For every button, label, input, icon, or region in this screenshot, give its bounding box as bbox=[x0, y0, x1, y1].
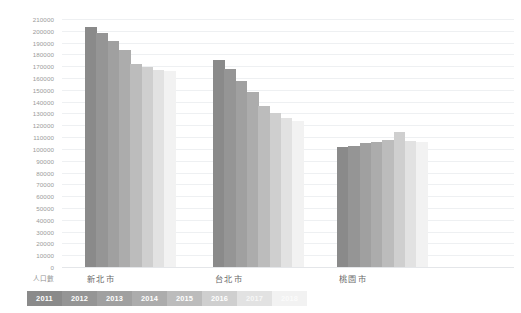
legend-item-2014[interactable]: 2014 bbox=[132, 291, 167, 306]
bar[interactable] bbox=[119, 50, 131, 267]
bar[interactable] bbox=[224, 69, 236, 267]
bar-group bbox=[337, 19, 427, 267]
bar[interactable] bbox=[258, 106, 270, 267]
y-axis-tick-label: 40000 bbox=[36, 216, 54, 223]
bar[interactable] bbox=[85, 27, 97, 267]
y-axis-tick-label: 190000 bbox=[33, 39, 54, 46]
y-axis-tick-label: 200000 bbox=[33, 27, 54, 34]
bar[interactable] bbox=[153, 70, 165, 267]
bar[interactable] bbox=[405, 141, 417, 267]
legend-item-2016[interactable]: 2016 bbox=[202, 291, 237, 306]
y-axis-tick-label: 80000 bbox=[36, 169, 54, 176]
bar[interactable] bbox=[394, 132, 406, 267]
bar[interactable] bbox=[142, 67, 154, 267]
legend-item-2018[interactable]: 2018 bbox=[272, 291, 307, 306]
y-axis-tick-label: 110000 bbox=[33, 134, 54, 141]
bar[interactable] bbox=[213, 60, 225, 267]
y-axis-tick-label: 210000 bbox=[33, 16, 54, 23]
legend-item-2013[interactable]: 2013 bbox=[97, 291, 132, 306]
bar[interactable] bbox=[337, 147, 349, 267]
y-axis-tick-label: 70000 bbox=[36, 181, 54, 188]
bar[interactable] bbox=[360, 143, 372, 267]
bar[interactable] bbox=[416, 142, 428, 267]
y-axis-tick-label: 30000 bbox=[36, 228, 54, 235]
bar[interactable] bbox=[130, 64, 142, 267]
gridline bbox=[62, 267, 514, 268]
y-axis-tick-label: 100000 bbox=[33, 145, 54, 152]
y-axis-tick-label: 140000 bbox=[33, 98, 54, 105]
bar-group bbox=[85, 19, 175, 267]
y-axis-tick-label: 50000 bbox=[36, 204, 54, 211]
category-label: 桃園市 bbox=[339, 272, 367, 284]
bar[interactable] bbox=[281, 118, 293, 267]
bar-group bbox=[213, 19, 303, 267]
plot-area bbox=[62, 19, 514, 267]
bar[interactable] bbox=[348, 146, 360, 267]
category-label: 台北市 bbox=[215, 272, 243, 284]
bar[interactable] bbox=[96, 33, 108, 267]
y-axis-tick-label: 150000 bbox=[33, 86, 54, 93]
bar[interactable] bbox=[108, 41, 120, 267]
y-axis-tick-label: 0 bbox=[50, 264, 54, 271]
bar[interactable] bbox=[247, 92, 259, 267]
bar-chart: 2100002000001900001800001700001600001500… bbox=[0, 0, 521, 313]
bar[interactable] bbox=[292, 121, 304, 267]
legend-item-2017[interactable]: 2017 bbox=[237, 291, 272, 306]
legend-item-2012[interactable]: 2012 bbox=[62, 291, 97, 306]
y-axis-tick-label: 90000 bbox=[36, 157, 54, 164]
y-axis-tick-label: 170000 bbox=[33, 63, 54, 70]
y-axis-title: 人口數 bbox=[33, 273, 54, 283]
legend-item-2015[interactable]: 2015 bbox=[167, 291, 202, 306]
bar[interactable] bbox=[164, 71, 176, 267]
y-axis-tick-label: 10000 bbox=[36, 252, 54, 259]
bar[interactable] bbox=[371, 142, 383, 267]
y-axis-tick-label: 130000 bbox=[33, 110, 54, 117]
y-axis-tick-label: 120000 bbox=[33, 122, 54, 129]
category-label: 新北市 bbox=[87, 272, 115, 284]
bar[interactable] bbox=[270, 113, 282, 267]
y-axis-tick-label: 160000 bbox=[33, 75, 54, 82]
y-axis-tick-label: 180000 bbox=[33, 51, 54, 58]
y-axis: 2100002000001900001800001700001600001500… bbox=[0, 0, 62, 290]
y-axis-tick-label: 20000 bbox=[36, 240, 54, 247]
bar[interactable] bbox=[382, 140, 394, 267]
legend-item-2011[interactable]: 2011 bbox=[27, 291, 62, 306]
bar[interactable] bbox=[236, 81, 248, 267]
y-axis-tick-label: 60000 bbox=[36, 193, 54, 200]
chart-legend[interactable]: 20112012201320142015201620172018 bbox=[27, 291, 307, 306]
